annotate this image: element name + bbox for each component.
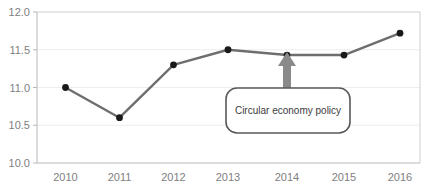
y-tick-label-10-5: 10.5	[9, 119, 30, 131]
x-tick-label-2014: 2014	[275, 171, 299, 183]
data-point-2010	[62, 84, 69, 91]
chart-canvas: 12.0 11.5 11.0 10.5 10.0 2010 2011 2012 …	[0, 0, 432, 191]
y-tick-marks	[33, 12, 37, 163]
x-tick-label-2015: 2015	[332, 171, 356, 183]
annotation-callout[interactable]: Circular economy policy	[226, 88, 350, 133]
line-chart: 12.0 11.5 11.0 10.5 10.0 2010 2011 2012 …	[0, 0, 432, 191]
x-tick-label-2016: 2016	[388, 171, 412, 183]
y-axis-labels: 12.0 11.5 11.0 10.5 10.0	[9, 6, 30, 169]
data-point-2013	[225, 46, 232, 53]
x-tick-label-2010: 2010	[53, 171, 77, 183]
x-axis-labels: 2010 2011 2012 2013 2014 2015 2016	[53, 171, 412, 183]
y-tick-label-10-0: 10.0	[9, 157, 30, 169]
annotation-callout-label: Circular economy policy	[235, 105, 341, 116]
data-point-2015	[341, 52, 348, 59]
arrow-shaft	[283, 62, 291, 89]
y-tick-label-11-0: 11.0	[9, 82, 30, 94]
data-point-2011	[116, 114, 123, 121]
y-tick-label-12-0: 12.0	[9, 6, 30, 18]
x-tick-label-2012: 2012	[161, 171, 185, 183]
x-tick-label-2013: 2013	[216, 171, 240, 183]
y-tick-label-11-5: 11.5	[9, 44, 30, 56]
data-point-2012	[170, 61, 177, 68]
data-point-2016	[397, 30, 404, 37]
x-tick-label-2011: 2011	[108, 171, 132, 183]
